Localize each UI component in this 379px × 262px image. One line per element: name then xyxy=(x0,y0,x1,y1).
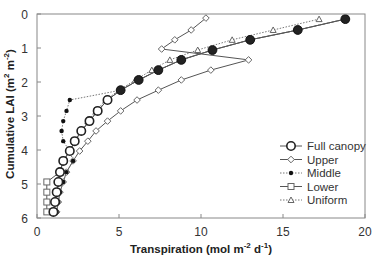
legend: Full canopyUpperMiddleLowerUniform xyxy=(280,140,366,206)
triangle-marker-icon xyxy=(316,16,322,22)
filled-circle-marker-icon xyxy=(134,76,143,85)
series-line xyxy=(53,19,319,212)
square-marker-icon xyxy=(44,189,50,195)
circle-marker-icon xyxy=(54,178,62,186)
circle-marker-icon xyxy=(59,157,67,165)
circle-marker-icon xyxy=(103,96,111,104)
circle-marker-icon xyxy=(85,117,93,125)
x-tick-label: 15 xyxy=(276,225,290,239)
dot-marker-icon xyxy=(71,159,75,163)
circle-marker-icon xyxy=(56,168,64,176)
filled-circle-marker-icon xyxy=(154,66,163,75)
x-tick-label: 0 xyxy=(34,225,41,239)
diamond-marker-icon xyxy=(155,87,162,94)
dot-marker-icon xyxy=(289,171,293,175)
legend-item-uniform: Uniform xyxy=(280,194,347,206)
plot-area xyxy=(44,15,350,216)
circle-marker-icon xyxy=(71,137,79,145)
filled-circle-marker-icon xyxy=(246,35,255,44)
filled-circle-marker-icon xyxy=(341,15,350,24)
circle-marker-icon xyxy=(51,198,59,206)
dot-marker-icon xyxy=(68,98,72,102)
square-marker-icon xyxy=(44,179,50,185)
dot-marker-icon xyxy=(64,170,68,174)
y-axis-title: Cumulative LAI (m2 m-2) xyxy=(2,49,16,179)
y-tick-label: 0 xyxy=(21,8,28,22)
diamond-marker-icon xyxy=(158,46,165,53)
x-axis-title: Transpiration (mol m-2 d-1) xyxy=(130,241,272,255)
y-tick-label: 6 xyxy=(21,212,28,226)
diamond-marker-icon xyxy=(288,156,295,163)
series-uniform xyxy=(53,19,319,212)
circle-marker-icon xyxy=(287,142,295,150)
y-tick-label: 5 xyxy=(21,178,28,192)
series-line xyxy=(57,19,346,212)
dot-marker-icon xyxy=(61,119,65,123)
chart-svg: 051015200123456 Cumulative LAI (m2 m-2) … xyxy=(0,0,379,262)
dot-marker-icon xyxy=(64,109,68,113)
series-line xyxy=(57,18,249,212)
legend-item-lower: Lower xyxy=(280,181,338,193)
y-tick-label: 3 xyxy=(21,110,28,124)
dot-marker-icon xyxy=(61,139,65,143)
square-marker-icon xyxy=(44,199,50,205)
series-line xyxy=(47,19,346,212)
x-tick-label: 10 xyxy=(194,225,208,239)
series-lower xyxy=(47,19,346,212)
series-markers-upper xyxy=(53,15,251,215)
legend-label: Middle xyxy=(307,167,341,179)
y-tick-label: 4 xyxy=(21,144,28,158)
y-tick-label: 1 xyxy=(21,42,28,56)
dot-marker-icon xyxy=(59,129,63,133)
legend-label: Full canopy xyxy=(307,140,366,152)
diamond-marker-icon xyxy=(171,37,178,44)
filled-circle-marker-icon xyxy=(208,46,217,55)
legend-item-upper: Upper xyxy=(280,154,338,166)
filled-circle-marker-icon xyxy=(293,26,302,35)
filled-circle-marker-icon xyxy=(177,56,186,65)
diamond-marker-icon xyxy=(208,67,215,74)
series-markers-lower xyxy=(44,16,348,215)
legend-label: Uniform xyxy=(307,194,347,206)
circle-marker-icon xyxy=(77,127,85,135)
triangle-marker-icon xyxy=(167,57,173,63)
series-markers-uniform xyxy=(50,16,322,214)
diamond-marker-icon xyxy=(245,57,252,64)
circle-marker-icon xyxy=(52,188,60,196)
filled-circle-marker-icon xyxy=(116,86,125,95)
square-marker-icon xyxy=(288,184,294,190)
x-tick-label: 5 xyxy=(116,225,123,239)
legend-label: Upper xyxy=(307,154,338,166)
diamond-marker-icon xyxy=(178,77,185,84)
series-upper xyxy=(57,18,249,212)
y-tick-label: 2 xyxy=(21,76,28,90)
circle-marker-icon xyxy=(93,107,101,115)
series-middle xyxy=(57,19,346,212)
legend-item-middle: Middle xyxy=(280,167,341,179)
diamond-marker-icon xyxy=(134,97,141,104)
circle-marker-icon xyxy=(49,208,57,216)
circle-marker-icon xyxy=(66,147,74,155)
x-tick-label: 20 xyxy=(358,225,372,239)
legend-item-full-canopy: Full canopy xyxy=(280,140,366,152)
legend-label: Lower xyxy=(307,181,338,193)
